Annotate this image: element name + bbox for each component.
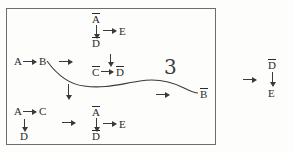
row-ac-target: C	[39, 106, 47, 117]
row-ab-source: A	[14, 56, 22, 67]
curve-endpoint-b-symbol: B	[200, 88, 208, 100]
top-group-right-arrow	[103, 30, 116, 31]
d-overbar-bottom: D	[92, 130, 100, 142]
row-ac-trailing-arrow	[62, 122, 75, 123]
diagram-frame	[6, 8, 216, 145]
top-group-down-arrow	[96, 25, 97, 35]
row-ac-down-arrow	[24, 119, 25, 128]
top-group-a-symbol: A	[92, 13, 100, 25]
row-ab-target: B	[39, 56, 47, 67]
b-overbar: B	[200, 88, 208, 100]
row-ab-trailing-arrow	[59, 61, 72, 62]
right-group-e-symbol: E	[268, 88, 275, 99]
curve-label-three: 3	[164, 57, 177, 77]
middle-group-down-arrow	[110, 54, 111, 63]
d-overbar-top: D	[92, 37, 100, 49]
right-group-down-arrow	[272, 72, 273, 83]
bottom-group-d-symbol: D	[92, 130, 100, 142]
a-overbar-bottom: A	[92, 106, 100, 118]
a-overbar-top: A	[92, 13, 100, 25]
d-overbar-middle: D	[116, 66, 124, 78]
bottom-group-e-symbol: E	[119, 119, 126, 130]
row-ac-arrow	[23, 111, 36, 112]
middle-group-d-symbol: D	[116, 66, 124, 78]
row-ac-source: A	[14, 106, 22, 117]
row-ab-arrow	[23, 61, 36, 62]
figure-canvas: A E D A B C D A C D A E D 3 B	[0, 0, 293, 153]
d-overbar-right: D	[268, 59, 276, 71]
bottom-group-right-arrow	[103, 123, 116, 124]
row-ac-below-symbol: D	[20, 131, 28, 142]
right-group-d-symbol: D	[268, 59, 276, 71]
bottom-group-a-symbol: A	[92, 106, 100, 118]
middle-group-arrow	[101, 71, 113, 72]
c-overbar: C	[92, 66, 100, 78]
right-group-entry-arrow	[243, 79, 256, 80]
curve-mid-arrow	[156, 94, 169, 95]
middle-group-c-symbol: C	[92, 66, 100, 78]
top-group-e-symbol: E	[119, 26, 126, 37]
vertical-link-arrow	[68, 84, 69, 96]
top-group-d-symbol: D	[92, 37, 100, 49]
bottom-group-down-arrow	[96, 118, 97, 128]
